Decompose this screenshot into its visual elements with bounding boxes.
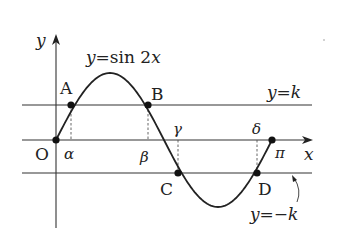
delta-label: δ bbox=[252, 120, 261, 138]
point-d-label: D bbox=[258, 179, 272, 199]
x-axis-label: x bbox=[304, 144, 314, 164]
point-origin bbox=[52, 136, 59, 143]
point-a-label: A bbox=[59, 78, 73, 98]
point-pi bbox=[268, 136, 275, 143]
curve-label: y=sin 2x bbox=[85, 47, 161, 67]
point-b-label: B bbox=[151, 84, 164, 104]
pointer-arrow bbox=[294, 178, 299, 202]
point-a bbox=[67, 101, 74, 108]
sine-diagram: y x O π y=sin 2x y=k y=−k A B C D α β γ … bbox=[0, 0, 343, 249]
point-d bbox=[253, 169, 260, 176]
line-minus-k-label: y=−k bbox=[249, 204, 298, 224]
origin-label: O bbox=[35, 144, 49, 164]
gamma-label: γ bbox=[173, 120, 182, 138]
speck bbox=[323, 39, 325, 41]
pi-label: π bbox=[274, 144, 286, 162]
point-c-label: C bbox=[160, 179, 173, 199]
point-c bbox=[174, 169, 181, 176]
y-axis-label: y bbox=[35, 30, 46, 50]
beta-label: β bbox=[139, 148, 149, 166]
alpha-label: α bbox=[64, 145, 74, 163]
line-k-label: y=k bbox=[266, 82, 301, 102]
